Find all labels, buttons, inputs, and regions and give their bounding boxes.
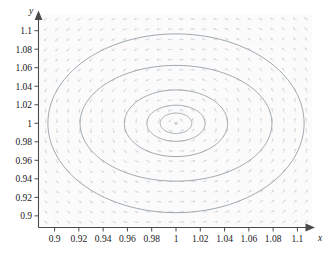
x-tick-label: 1 <box>174 234 179 244</box>
field-arrow <box>215 118 216 123</box>
field-arrow <box>191 29 196 30</box>
x-axis-label: x <box>317 233 323 243</box>
field-arrow <box>191 222 196 223</box>
y-tick-label: 0.94 <box>15 174 32 184</box>
y-axis-ticks: 0.90.920.940.960.9811.021.041.061.081.1 <box>15 26 38 221</box>
y-tick-label: 1.08 <box>15 45 32 55</box>
x-tick-label: 1.08 <box>265 234 282 244</box>
field-arrow <box>272 128 273 133</box>
y-tick-label: 1.1 <box>20 26 32 36</box>
y-tick-label: 0.92 <box>15 193 32 203</box>
x-tick-label: 0.94 <box>95 234 112 244</box>
x-tick-label: 1.02 <box>192 234 209 244</box>
x-tick-label: 1.1 <box>291 234 303 244</box>
x-tick-label: 0.98 <box>143 234 160 244</box>
x-tick-label: 0.9 <box>49 234 61 244</box>
equilibrium-point <box>174 122 177 125</box>
y-axis-label: y <box>28 6 34 16</box>
y-tick-label: 0.98 <box>15 137 32 147</box>
y-tick-label: 1.02 <box>15 100 32 110</box>
field-arrow <box>157 29 162 30</box>
field-arrow <box>168 151 173 152</box>
y-tick-label: 1.06 <box>15 63 32 73</box>
phase-portrait-figure: 0.90.920.940.960.9811.021.041.061.081.1 … <box>0 0 330 253</box>
x-axis-ticks: 0.90.920.940.960.9811.021.041.061.081.1 <box>49 228 304 245</box>
field-arrow <box>79 128 80 133</box>
y-tick-label: 1 <box>27 119 32 129</box>
x-tick-label: 0.96 <box>119 234 136 244</box>
y-tick-label: 0.96 <box>15 156 32 166</box>
y-tick-label: 1.04 <box>15 82 32 92</box>
plot-canvas: 0.90.920.940.960.9811.021.041.061.081.1 … <box>0 0 330 253</box>
x-tick-label: 0.92 <box>71 234 88 244</box>
field-arrow <box>179 151 184 152</box>
x-tick-label: 1.04 <box>216 234 233 244</box>
field-arrow <box>136 118 137 123</box>
field-arrow <box>191 39 196 40</box>
x-tick-label: 1.06 <box>241 234 258 244</box>
field-arrow <box>157 39 162 40</box>
field-arrow <box>157 222 162 223</box>
plot-background-panel <box>40 14 312 227</box>
y-tick-label: 0.9 <box>20 211 32 221</box>
